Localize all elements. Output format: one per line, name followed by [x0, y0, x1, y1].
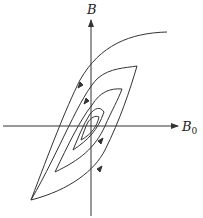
x-axis-subscript: 0: [192, 126, 198, 136]
outer-loop: [31, 32, 167, 200]
x-axis-label: B0: [182, 120, 197, 136]
y-axis-label: B: [87, 3, 97, 16]
x-axis-label-text: B: [182, 119, 192, 134]
diagram-svg: [0, 0, 203, 218]
loop-3: [73, 108, 104, 150]
hysteresis-diagram: B B0: [0, 0, 203, 218]
